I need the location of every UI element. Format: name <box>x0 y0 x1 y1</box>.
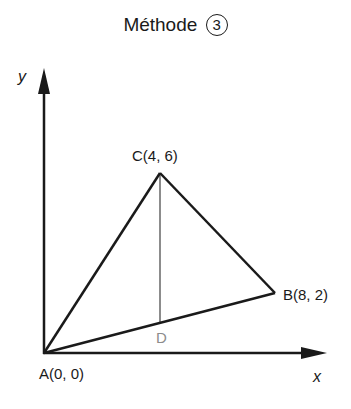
point-c-label: C(4, 6) <box>132 147 178 164</box>
x-axis-label: x <box>313 368 321 386</box>
x-axis-arrow-icon <box>301 347 327 359</box>
point-a-label: A(0, 0) <box>39 365 84 382</box>
triangle-diagram <box>0 0 351 409</box>
y-axis-label: y <box>18 68 26 86</box>
y-axis-arrow-icon <box>38 68 50 94</box>
segment-ac <box>44 173 160 353</box>
point-d-label: D <box>156 329 167 346</box>
segment-cb <box>160 173 275 293</box>
point-b-label: B(8, 2) <box>283 286 328 303</box>
